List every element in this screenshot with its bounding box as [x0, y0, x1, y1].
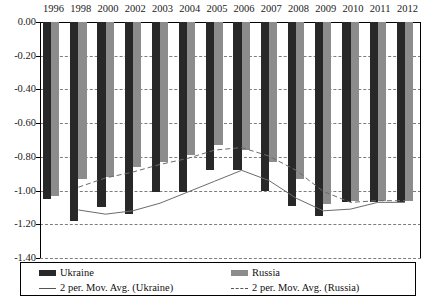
- y-tick-label: -0.60: [0, 118, 36, 128]
- legend-column-left: Ukraine 2 per. Mov. Avg. (Ukraine): [39, 265, 173, 295]
- legend-item-russia: Russia: [231, 266, 359, 280]
- legend-item-russia-mov-avg: 2 per. Mov. Avg. (Russia): [231, 281, 359, 295]
- x-axis-label: 2007: [258, 2, 285, 16]
- x-axis-label: 2004: [176, 2, 203, 16]
- chart-container: 0.00-0.20-0.40-0.60-0.80-1.00-1.20-1.40 …: [0, 0, 432, 303]
- y-tick-label: -1.20: [0, 219, 36, 229]
- x-axis-label: 1998: [67, 2, 94, 16]
- x-axis-label: 2010: [339, 2, 366, 16]
- x-axis-label: 2011: [367, 2, 394, 16]
- dashed-line-icon: [231, 288, 248, 289]
- trendline-ukraine: [78, 170, 405, 214]
- x-axis-label: 2003: [149, 2, 176, 16]
- x-axis-label: 2000: [94, 2, 121, 16]
- trendline-russia: [78, 148, 405, 203]
- bar-swatch-dark-icon: [39, 270, 56, 276]
- legend-item-ukraine-mov-avg: 2 per. Mov. Avg. (Ukraine): [39, 281, 173, 295]
- y-tick-label: -0.80: [0, 152, 36, 162]
- solid-line-icon: [39, 288, 56, 289]
- legend-label-ukraine: Ukraine: [60, 267, 94, 279]
- y-tick-label: 0.00: [0, 17, 36, 27]
- trendlines-layer: [40, 22, 421, 258]
- chart-legend: Ukraine 2 per. Mov. Avg. (Ukraine) Russi…: [20, 262, 416, 296]
- x-axis-label: 2006: [231, 2, 258, 16]
- x-axis-label: 2012: [394, 2, 421, 16]
- y-tick-label: -1.00: [0, 186, 36, 196]
- y-tick-label: -0.40: [0, 84, 36, 94]
- x-axis-label: 2005: [203, 2, 230, 16]
- legend-column-right: Russia 2 per. Mov. Avg. (Russia): [231, 265, 359, 295]
- axis-bottom-line: [40, 258, 421, 259]
- legend-label-russia: Russia: [252, 267, 280, 279]
- legend-item-ukraine: Ukraine: [39, 266, 173, 280]
- x-axis-labels: 1996199820002002200320042005200620072008…: [40, 2, 421, 18]
- legend-label-russia-mov-avg: 2 per. Mov. Avg. (Russia): [252, 282, 359, 294]
- bar-swatch-gray-icon: [231, 270, 248, 276]
- x-axis-label: 2008: [285, 2, 312, 16]
- legend-label-ukraine-mov-avg: 2 per. Mov. Avg. (Ukraine): [60, 282, 173, 294]
- x-axis-label: 2002: [122, 2, 149, 16]
- x-axis-label: 1996: [40, 2, 67, 16]
- x-axis-label: 2009: [312, 2, 339, 16]
- y-tick-label: -0.20: [0, 51, 36, 61]
